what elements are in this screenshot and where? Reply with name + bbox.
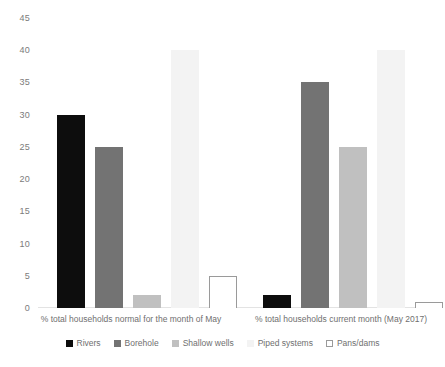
y-axis-tick: 40 (20, 46, 30, 55)
bar-chart: 45 40 35 30 25 20 15 10 5 0 % total hous… (0, 0, 445, 367)
y-axis-tick: 15 (20, 207, 30, 216)
y-axis: 45 40 35 30 25 20 15 10 5 0 (0, 18, 36, 308)
y-axis-tick: 35 (20, 78, 30, 87)
legend-swatch-icon (172, 340, 179, 347)
x-axis-category-label: % total households current month (May 20… (236, 314, 445, 325)
bar-shallow-wells (339, 147, 367, 308)
chart-legend: Rivers Borehole Shallow wells Piped syst… (0, 338, 445, 348)
bar-rivers (57, 115, 85, 308)
bar-shallow-wells (133, 295, 161, 308)
legend-item-rivers: Rivers (66, 338, 101, 348)
legend-label: Piped systems (258, 338, 313, 348)
legend-label: Pans/dams (337, 338, 380, 348)
bar-rivers (263, 295, 291, 308)
legend-item-shallow-wells: Shallow wells (172, 338, 234, 348)
bar-borehole (301, 82, 329, 308)
bar-group-normal-may (38, 18, 234, 308)
legend-swatch-icon (66, 340, 73, 347)
y-axis-tick: 5 (25, 271, 30, 280)
legend-item-borehole: Borehole (114, 338, 159, 348)
bar-pans-dams (209, 276, 237, 308)
y-axis-tick: 0 (25, 304, 30, 313)
plot-area (38, 18, 440, 308)
y-axis-tick: 20 (20, 175, 30, 184)
legend-swatch-icon (247, 340, 254, 347)
y-axis-tick: 30 (20, 110, 30, 119)
y-axis-tick: 45 (20, 14, 30, 23)
bar-piped-systems (377, 50, 405, 308)
y-axis-tick: 25 (20, 142, 30, 151)
bar-group-current-may-2017 (244, 18, 440, 308)
bar-borehole (95, 147, 123, 308)
legend-label: Rivers (77, 338, 101, 348)
legend-swatch-icon (114, 340, 121, 347)
bar-pans-dams (415, 302, 443, 308)
legend-item-piped-systems: Piped systems (247, 338, 313, 348)
legend-label: Borehole (125, 338, 159, 348)
bar-piped-systems (171, 50, 199, 308)
legend-label: Shallow wells (183, 338, 234, 348)
y-axis-tick: 10 (20, 239, 30, 248)
legend-item-pans-dams: Pans/dams (326, 338, 380, 348)
x-axis-category-label: % total households normal for the month … (26, 314, 236, 325)
legend-swatch-icon (326, 340, 333, 347)
